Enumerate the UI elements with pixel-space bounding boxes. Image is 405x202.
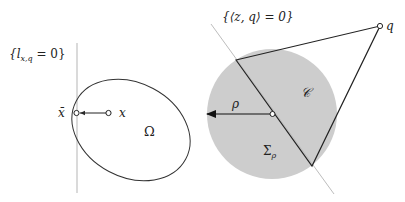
hyperplane-label: {lx,q = 0} <box>9 47 66 63</box>
x-label: x <box>119 106 126 120</box>
hyperplane-label: {⟨z, q⟩ = 0} <box>222 10 294 24</box>
x-bar-label: x̄ <box>58 106 65 120</box>
rho-label: ρ <box>231 97 239 111</box>
right-figure: {⟨z, q⟩ = 0} q 𝒞 ρ Σρ <box>207 10 394 194</box>
q-label: q <box>386 19 394 33</box>
diagram-canvas: {lx,q = 0} x̄ x Ω {⟨z, q⟩ = 0} q 𝒞 ρ Σρ <box>0 0 405 202</box>
omega-label: Ω <box>144 124 155 139</box>
apex-point-q <box>377 23 382 28</box>
left-figure: {lx,q = 0} x̄ x Ω <box>9 43 208 201</box>
center-point <box>270 112 275 117</box>
point-x <box>106 110 111 115</box>
point-x-bar <box>74 110 79 115</box>
